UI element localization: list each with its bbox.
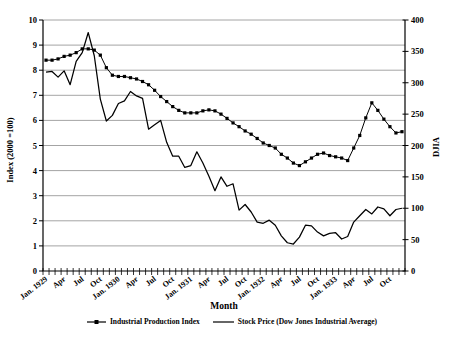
data-point-marker (286, 156, 289, 159)
data-point-marker (280, 153, 283, 156)
data-point-marker (346, 159, 349, 162)
data-point-marker (135, 77, 138, 80)
data-point-marker (334, 155, 337, 158)
left-axis-title: Index (2000 =100) (5, 117, 15, 182)
series-line-0 (46, 49, 402, 166)
data-point-marker (244, 129, 247, 132)
data-point-marker (268, 144, 271, 147)
x-axis-tick-label: Jan. 1929 (18, 274, 49, 301)
data-point-marker (316, 153, 319, 156)
data-point-marker (117, 75, 120, 78)
x-axis-tick-label: Jul (289, 274, 304, 288)
data-point-marker (44, 59, 47, 62)
data-point-marker (328, 154, 331, 157)
data-point-marker (352, 146, 355, 149)
data-point-marker (322, 151, 325, 154)
right-axis-tick-label: 100 (411, 203, 424, 213)
x-axis-tick-label: Jul (144, 274, 159, 288)
data-point-marker (237, 125, 240, 128)
left-axis-tick-label: 5 (33, 141, 37, 151)
data-point-marker (177, 109, 180, 112)
x-axis-title: Month (0, 301, 448, 311)
data-point-marker (189, 111, 192, 114)
data-point-marker (99, 54, 102, 57)
data-point-marker (69, 54, 72, 57)
right-axis-title: DJIA (431, 137, 441, 157)
legend-item-industrial-production: Industrial Production Index (87, 317, 200, 326)
right-axis-tick-label: 350 (411, 46, 424, 56)
data-point-marker (105, 66, 108, 69)
right-axis-tick-label: 0 (411, 266, 415, 276)
data-point-marker (165, 100, 168, 103)
series-line-1 (46, 33, 402, 244)
data-point-marker (225, 117, 228, 120)
line-square-marker-icon (87, 318, 106, 326)
left-axis-tick-label: 7 (33, 90, 38, 100)
data-point-marker (394, 131, 397, 134)
x-axis-tick-label: Jul (71, 274, 86, 288)
right-axis-tick-label: 50 (411, 235, 420, 245)
x-axis-tick-label: Apr (268, 274, 285, 290)
data-point-marker (50, 59, 53, 62)
data-point-marker (364, 116, 367, 119)
x-axis-tick-label: Apr (123, 274, 140, 290)
data-point-marker (75, 51, 78, 54)
data-point-marker (370, 101, 373, 104)
data-point-marker (129, 76, 132, 79)
right-axis-tick-label: 200 (411, 141, 424, 151)
great-depression-chart: 012345678910050100150200250300350400Jan.… (0, 0, 452, 341)
left-axis-tick-label: 6 (33, 115, 37, 125)
left-axis-tick-label: 3 (33, 191, 37, 201)
data-point-marker (219, 113, 222, 116)
left-axis-tick-label: 9 (33, 40, 37, 50)
data-point-marker (159, 95, 162, 98)
data-point-marker (340, 156, 343, 159)
data-point-marker (171, 105, 174, 108)
data-point-marker (183, 111, 186, 114)
data-point-marker (213, 109, 216, 112)
left-axis-tick-label: 0 (33, 266, 37, 276)
data-point-marker (358, 134, 361, 137)
left-axis-tick-label: 4 (33, 166, 38, 176)
x-axis-tick-label: Jul (216, 274, 231, 288)
data-point-marker (56, 57, 59, 60)
data-point-marker (250, 133, 253, 136)
right-axis-tick-label: 150 (411, 172, 424, 182)
plot-area: 012345678910050100150200250300350400Jan.… (0, 0, 452, 341)
data-point-marker (195, 111, 198, 114)
data-point-marker (400, 130, 403, 133)
left-axis-tick-label: 8 (33, 65, 37, 75)
data-point-marker (201, 109, 204, 112)
data-point-marker (147, 83, 150, 86)
right-axis-tick-label: 300 (411, 78, 424, 88)
data-point-marker (274, 146, 277, 149)
right-axis-tick-label: 400 (411, 15, 424, 25)
data-point-marker (310, 156, 313, 159)
data-point-marker (111, 74, 114, 77)
legend: Industrial Production Index Stock Price … (0, 317, 452, 326)
legend-label-industrial-production: Industrial Production Index (110, 317, 200, 326)
left-axis-tick-label: 1 (33, 241, 37, 251)
x-axis-tick-label: Apr (196, 274, 213, 290)
data-point-marker (256, 137, 259, 140)
data-point-marker (231, 121, 234, 124)
data-point-marker (153, 89, 156, 92)
left-axis-tick-label: 2 (33, 216, 37, 226)
x-axis-tick-label: Oct (378, 274, 394, 289)
x-axis-tick-label: Apr (341, 274, 358, 290)
data-point-marker (388, 125, 391, 128)
data-point-marker (63, 55, 66, 58)
data-point-marker (298, 164, 301, 167)
data-point-marker (123, 75, 126, 78)
data-point-marker (262, 141, 265, 144)
legend-label-stock-price: Stock Price (Dow Jones Industrial Averag… (238, 317, 377, 326)
data-point-marker (382, 118, 385, 121)
data-point-marker (292, 161, 295, 164)
data-point-marker (304, 160, 307, 163)
x-axis-tick-label: Apr (51, 274, 68, 290)
data-point-marker (376, 109, 379, 112)
right-axis-tick-label: 250 (411, 109, 424, 119)
data-point-marker (207, 108, 210, 111)
legend-item-stock-price: Stock Price (Dow Jones Industrial Averag… (213, 317, 377, 326)
solid-line-marker-icon (213, 318, 234, 326)
